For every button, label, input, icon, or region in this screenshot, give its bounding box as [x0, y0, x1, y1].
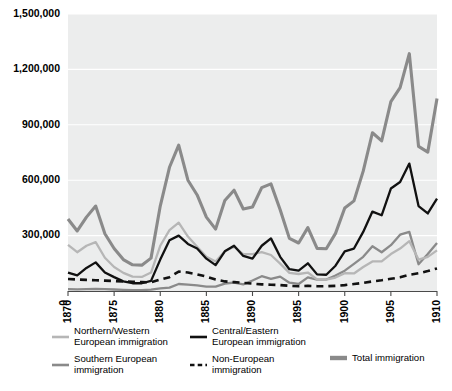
- plot-area-background: [68, 14, 437, 291]
- legend-label-total: Total immigration: [352, 352, 425, 363]
- legend-label-non_european: Non-European: [212, 353, 274, 364]
- x-axis-tick-label: 1900: [338, 300, 350, 324]
- y-axis-tick-label: 1,200,000: [13, 62, 60, 74]
- legend-label-central_eastern: Central/Eastern: [212, 325, 279, 336]
- x-axis-tick-label: 1910: [430, 300, 442, 324]
- immigration-line-chart: 300,000600,000900,0001,200,0001,500,000 …: [0, 0, 452, 391]
- y-axis-tick-label: 600,000: [22, 173, 60, 185]
- y-axis-zero-label: 0: [57, 300, 69, 306]
- y-axis-tick-label: 300,000: [22, 228, 60, 240]
- x-axis-tick-label: 1880: [153, 300, 165, 324]
- x-axis-tick-label: 1875: [107, 300, 119, 324]
- x-axis-tick-label: 1895: [291, 300, 303, 324]
- y-axis-tick-label: 900,000: [22, 118, 60, 130]
- legend-label-southern-line2: immigration: [74, 364, 124, 375]
- x-axis-tick-label: 1885: [199, 300, 211, 324]
- legend-label-southern: Southern European: [74, 353, 157, 364]
- legend-label-northern_western: Northern/Western: [74, 325, 150, 336]
- legend-label-central_eastern-line2: European immigration: [212, 336, 306, 347]
- legend-label-northern_western-line2: European immigration: [74, 336, 168, 347]
- x-axis-tick-label: 1890: [245, 300, 257, 324]
- y-axis-tick-label: 1,500,000: [13, 7, 60, 19]
- legend-label-non_european-line2: immigration: [212, 364, 262, 375]
- x-axis-tick-label: 1905: [384, 300, 396, 324]
